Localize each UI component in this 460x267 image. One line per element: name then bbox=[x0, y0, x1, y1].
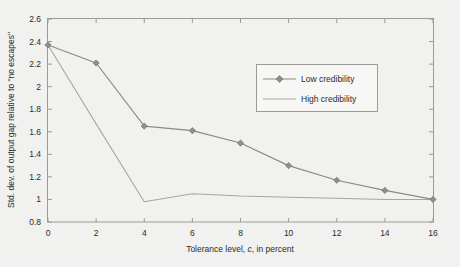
x-tick-label: 12 bbox=[332, 228, 342, 238]
chart-background bbox=[0, 0, 460, 267]
y-tick-label: 2.2 bbox=[29, 59, 41, 69]
y-tick-label: 0.8 bbox=[29, 217, 41, 227]
x-tick-label: 6 bbox=[190, 228, 195, 238]
legend-box bbox=[257, 65, 378, 112]
x-axis-title: Tolerance level, c, in percent bbox=[186, 244, 294, 254]
y-tick-label: 1.8 bbox=[29, 104, 41, 114]
x-tick-label: 8 bbox=[238, 228, 243, 238]
x-tick-label: 14 bbox=[380, 228, 390, 238]
legend-label-high-credibility: High credibility bbox=[301, 94, 357, 104]
x-tick-label: 4 bbox=[142, 228, 147, 238]
x-axis-title-after: , in percent bbox=[252, 244, 295, 254]
x-tick-label: 10 bbox=[284, 228, 294, 238]
x-tick-label: 0 bbox=[46, 228, 51, 238]
y-axis-title: Std. dev. of output gap relative to "no … bbox=[6, 32, 16, 208]
y-tick-label: 2.6 bbox=[29, 14, 41, 24]
y-tick-label: 2 bbox=[36, 82, 41, 92]
y-tick-label: 1.6 bbox=[29, 127, 41, 137]
y-tick-label: 1.4 bbox=[29, 149, 41, 159]
line-chart: 0.811.21.41.61.822.22.42.6 0246810121416… bbox=[0, 0, 460, 267]
legend-label-low-credibility: Low credibility bbox=[301, 74, 355, 84]
y-tick-label: 1.2 bbox=[29, 172, 41, 182]
figure-container: 0.811.21.41.61.822.22.42.6 0246810121416… bbox=[0, 0, 460, 267]
x-tick-label: 16 bbox=[428, 228, 438, 238]
x-axis-title-before: Tolerance level, bbox=[186, 244, 247, 254]
y-tick-label: 2.4 bbox=[29, 37, 41, 47]
x-tick-label: 2 bbox=[94, 228, 99, 238]
y-tick-label: 1 bbox=[36, 194, 41, 204]
